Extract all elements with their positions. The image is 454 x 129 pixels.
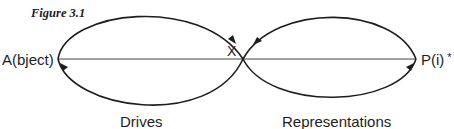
node-label-p-text: P(i) (421, 51, 444, 68)
asterisk-marker: * (447, 51, 451, 63)
loop-label-representations: Representations (282, 114, 391, 129)
representations-loop-bottom-arc (243, 59, 416, 97)
node-label-x: X (227, 44, 236, 58)
node-label-object: A(bject) (2, 52, 54, 67)
drives-loop-bottom-arc (58, 59, 243, 105)
drives-loop-top-arc (58, 16, 243, 59)
figure-drawing (0, 0, 454, 129)
representations-loop-top-arc (243, 17, 416, 59)
node-label-p: P(i)* (421, 52, 452, 67)
loop-label-drives: Drives (120, 114, 163, 129)
figure-3-1: Figure 3.1 A(bject) X P(i)* Drives Repre… (0, 0, 454, 129)
